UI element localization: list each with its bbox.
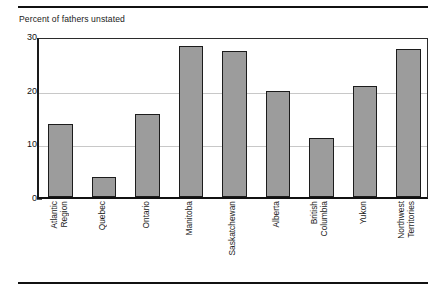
x-axis-label-text: Yukon [358, 201, 368, 224]
y-axis-tick-label: 10 [11, 140, 37, 149]
x-axis-label: Manitoba [177, 201, 202, 269]
bar [135, 114, 160, 197]
x-axis-label: BritishColumbia [307, 201, 332, 269]
x-axis-label-text: Columbia [319, 201, 329, 236]
x-axis-label-text: British [309, 201, 319, 224]
bar [179, 46, 204, 197]
y-axis-tick-label: 0 [11, 194, 37, 203]
x-axis-label-text: Manitoba [184, 201, 194, 235]
figure-container: Percent of fathers unstated 0102030 Atla… [0, 0, 446, 291]
x-axis-labels: AtlanticRegionQuebecOntarioManitobaSaska… [37, 201, 428, 271]
x-axis-label-text: Territories [406, 201, 416, 238]
top-rule [18, 6, 428, 8]
x-axis-label-text: Northwest [396, 201, 406, 239]
x-axis-label: Ontario [133, 201, 158, 269]
x-axis-label: AtlanticRegion [46, 201, 71, 269]
x-axis-label: Alberta [264, 201, 289, 269]
bar [48, 124, 73, 197]
x-axis-label-text: Quebec [97, 201, 107, 230]
x-axis-label-text: Ontario [141, 201, 151, 228]
plot-area [37, 38, 428, 199]
x-axis-label: Saskatchewan [220, 201, 245, 269]
bottom-rule [18, 282, 428, 284]
y-axis: 0102030 [5, 0, 37, 291]
bar [222, 51, 247, 198]
bar [396, 49, 421, 197]
bar [92, 177, 117, 197]
y-axis-tick-label: 30 [11, 33, 37, 42]
x-axis-label: NorthwestTerritories [394, 201, 419, 269]
x-axis-label: Yukon [351, 201, 376, 269]
bar [309, 138, 334, 197]
x-axis-label: Quebec [90, 201, 115, 269]
x-axis-label-text: Saskatchewan [227, 201, 237, 255]
x-axis-label-text: Atlantic [49, 201, 59, 228]
x-axis-label-text: Region [59, 201, 69, 228]
bar [353, 86, 378, 197]
x-axis-label-text: Alberta [271, 201, 281, 228]
y-axis-tick-label: 20 [11, 87, 37, 96]
y-axis-tick-mark [37, 199, 42, 200]
bar [266, 91, 291, 197]
